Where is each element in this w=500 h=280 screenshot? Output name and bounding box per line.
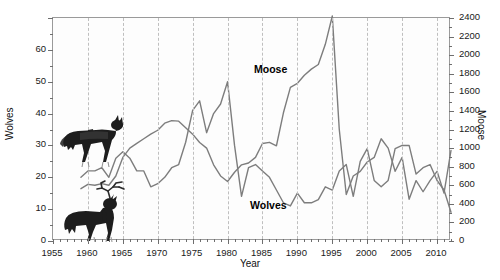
y-left-tick-major	[48, 177, 53, 178]
y-right-tick-label: 800	[459, 161, 475, 171]
y-right-tick-major	[449, 130, 454, 131]
x-tick-minor	[346, 239, 347, 242]
y-right-tick-major	[449, 185, 454, 186]
x-tick-label: 2000	[356, 248, 377, 258]
y-right-tick-major	[449, 111, 454, 112]
y-right-tick-label: 2200	[459, 31, 480, 41]
x-tick-major	[402, 239, 403, 244]
x-tick-minor	[255, 239, 256, 242]
x-tick-major	[437, 239, 438, 244]
x-tick-minor	[186, 239, 187, 242]
y-left-tick-label: 50	[20, 76, 46, 86]
y-left-tick-label: 20	[20, 172, 46, 182]
x-tick-minor	[130, 239, 131, 242]
y-left-tick-label: 40	[20, 108, 46, 118]
gridline-vertical	[367, 18, 368, 239]
x-tick-minor	[374, 239, 375, 242]
x-tick-minor	[430, 239, 431, 242]
series-label-moose: Moose	[254, 63, 287, 75]
x-tick-minor	[207, 239, 208, 242]
x-tick-label: 1955	[41, 248, 62, 258]
y-right-tick-major	[449, 167, 454, 168]
y-right-tick-major	[449, 222, 454, 223]
x-tick-minor	[214, 239, 215, 242]
y-right-tick-minor	[449, 232, 452, 233]
x-tick-major	[262, 239, 263, 244]
y-left-tick-major	[48, 241, 53, 242]
x-tick-label: 1980	[216, 248, 237, 258]
x-tick-label: 1985	[251, 248, 272, 258]
x-tick-major	[193, 239, 194, 244]
y-right-tick-major	[449, 204, 454, 205]
x-tick-minor	[339, 239, 340, 242]
y-right-tick-minor	[449, 139, 452, 140]
y-right-tick-minor	[449, 27, 452, 28]
chart-canvas: Wolves Moose Year	[0, 0, 500, 280]
x-tick-minor	[416, 239, 417, 242]
x-tick-minor	[172, 239, 173, 242]
x-axis-title: Year	[0, 258, 500, 269]
y-right-tick-minor	[449, 213, 452, 214]
x-tick-minor	[151, 239, 152, 242]
x-tick-minor	[290, 239, 291, 242]
x-tick-major	[297, 239, 298, 244]
series-line-wolves	[81, 82, 451, 213]
x-tick-minor	[242, 239, 243, 242]
x-tick-minor	[165, 239, 166, 242]
y-right-tick-label: 1000	[459, 142, 480, 152]
gridline-vertical	[193, 18, 194, 239]
y-right-tick-minor	[449, 157, 452, 158]
y-left-tick-minor	[50, 193, 53, 194]
y-right-tick-minor	[449, 83, 452, 84]
x-tick-minor	[235, 239, 236, 242]
moose-illustration	[56, 180, 128, 242]
y-right-tick-major	[449, 18, 454, 19]
y-right-tick-label: 2400	[459, 12, 480, 22]
x-tick-label: 1990	[286, 248, 307, 258]
y-left-tick-label: 60	[20, 44, 46, 54]
x-tick-minor	[388, 239, 389, 242]
series-line-moose	[81, 16, 451, 199]
gridline-vertical	[297, 18, 298, 239]
y-right-tick-label: 600	[459, 180, 475, 190]
y-right-tick-label: 400	[459, 198, 475, 208]
y-right-tick-label: 1800	[459, 68, 480, 78]
x-tick-minor	[276, 239, 277, 242]
y-right-tick-minor	[449, 176, 452, 177]
x-tick-minor	[353, 239, 354, 242]
y-right-tick-label: 1600	[459, 87, 480, 97]
x-tick-label: 1965	[111, 248, 132, 258]
y-right-tick-major	[449, 148, 454, 149]
x-tick-minor	[444, 239, 445, 242]
y-left-tick-minor	[50, 130, 53, 131]
y-right-tick-minor	[449, 102, 452, 103]
y-right-tick-minor	[449, 120, 452, 121]
x-tick-label: 2010	[425, 248, 446, 258]
y-right-tick-minor	[449, 195, 452, 196]
y-left-tick-major	[48, 145, 53, 146]
y-left-tick-label: 30	[20, 140, 46, 150]
gridline-vertical	[332, 18, 333, 239]
x-tick-major	[158, 239, 159, 244]
x-tick-label: 1970	[146, 248, 167, 258]
y-axis-left-title: Wolves	[4, 107, 15, 140]
y-right-tick-major	[449, 37, 454, 38]
wolf-illustration	[58, 106, 124, 168]
x-tick-minor	[200, 239, 201, 242]
gridline-vertical	[228, 18, 229, 239]
gridline-vertical	[437, 18, 438, 239]
y-left-tick-label: 0	[20, 235, 46, 245]
x-tick-major	[228, 239, 229, 244]
x-tick-label: 1960	[76, 248, 97, 258]
y-left-tick-minor	[50, 225, 53, 226]
y-right-tick-label: 1400	[459, 105, 480, 115]
x-tick-minor	[318, 239, 319, 242]
y-right-tick-minor	[449, 64, 452, 65]
y-right-tick-label: 200	[459, 217, 475, 227]
x-tick-label: 1975	[181, 248, 202, 258]
y-left-tick-label: 10	[20, 203, 46, 213]
x-tick-minor	[409, 239, 410, 242]
y-right-tick-major	[449, 241, 454, 242]
x-tick-minor	[144, 239, 145, 242]
x-tick-minor	[360, 239, 361, 242]
